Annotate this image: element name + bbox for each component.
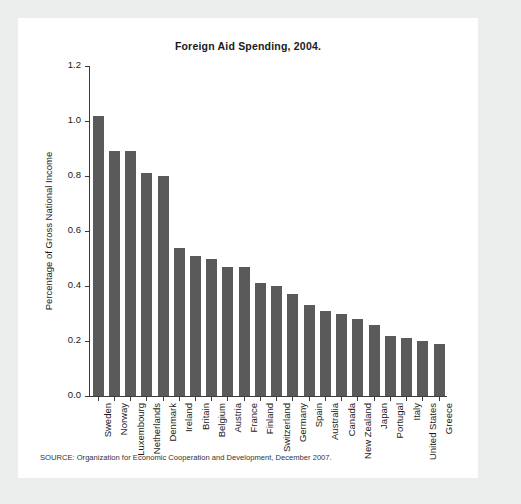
x-tick-slot [334,397,350,401]
bar [352,319,363,396]
x-tick-mark [179,397,180,401]
x-label-slot: Italy [398,403,414,475]
y-tick-label: 0.8 [68,169,81,180]
x-tick-slot [204,397,220,401]
bar [158,176,169,396]
x-label-slot: Switzerland [269,403,285,475]
x-tick-slot [122,397,138,401]
bar [255,283,266,396]
bar-slot [285,66,301,396]
chart-panel: Foreign Aid Spending, 2004. Percentage o… [18,18,478,478]
bar-slot [155,66,171,396]
x-tick-slot [285,397,301,401]
bar-slot [122,66,138,396]
y-tick-label: 0.0 [68,389,81,400]
x-tick-slot [301,397,317,401]
bar-slot [269,66,285,396]
y-tick-label: 1.2 [68,59,81,70]
x-label-slot: Britain [187,403,203,475]
x-label-slot: Sweden [90,403,106,475]
x-label-slot: Luxembourg [122,403,138,475]
x-tick-mark [422,397,423,401]
x-label-slot: Germany [285,403,301,475]
x-tick-mark [276,397,277,401]
x-tick-mark [195,397,196,401]
bar [93,116,104,397]
bar [401,338,412,396]
bar-slot [106,66,122,396]
x-label-slot: New Zealand [350,403,366,475]
x-tick-mark [211,397,212,401]
x-tick-slot [398,397,414,401]
x-tick-mark [260,397,261,401]
x-tick-slot [317,397,333,401]
x-tick-mark [130,397,131,401]
bar [174,248,185,397]
x-tick-slot [106,397,122,401]
x-tick-mark [98,397,99,401]
x-label-slot: Denmark [155,403,171,475]
x-tick-mark [325,397,326,401]
x-tick-mark [163,397,164,401]
x-tick-slot [171,397,187,401]
bar [206,259,217,397]
x-label-slot: United States [415,403,431,475]
source-note: SOURCE: Organization for Economic Cooper… [40,453,332,462]
bar-slot [415,66,431,396]
x-label-slot: Finland [252,403,268,475]
bar-slot [171,66,187,396]
bar-slot [398,66,414,396]
bar [434,344,445,396]
y-tick-label: 1.0 [68,114,81,125]
x-label-slot: Portugal [382,403,398,475]
x-label-slot: Japan [366,403,382,475]
x-tick-slot [236,397,252,401]
x-label-slot: Spain [301,403,317,475]
chart-title: Foreign Aid Spending, 2004. [18,40,478,52]
bar-slot [236,66,252,396]
x-tick-slot [139,397,155,401]
bar [369,325,380,397]
x-tick-mark [292,397,293,401]
x-axis-labels: SwedenNorwayLuxembourgNetherlandsDenmark… [90,403,447,475]
bar-series [90,66,447,396]
bar-slot [382,66,398,396]
x-axis-ticks [90,397,447,401]
x-tick-mark [341,397,342,401]
bar [287,294,298,396]
y-tick-label: 0.6 [68,224,81,235]
x-tick-mark [357,397,358,401]
x-tick-slot [366,397,382,401]
bar [239,267,250,396]
bar [141,173,152,396]
bar [320,311,331,396]
bar-slot [252,66,268,396]
x-tick-slot [415,397,431,401]
bar-slot [220,66,236,396]
bar-slot [90,66,106,396]
bar [336,314,347,397]
x-tick-mark [309,397,310,401]
x-label-slot: Belgium [204,403,220,475]
x-label-slot: Netherlands [139,403,155,475]
x-label-slot: Canada [334,403,350,475]
bar-slot [139,66,155,396]
bar [190,256,201,396]
x-tick-slot [220,397,236,401]
x-label-slot: Ireland [171,403,187,475]
x-tick-slot [90,397,106,401]
bar-slot [334,66,350,396]
x-tick-mark [390,397,391,401]
x-tick-slot [350,397,366,401]
bar [222,267,233,396]
bar-slot [204,66,220,396]
x-label-slot: France [236,403,252,475]
bar [109,151,120,396]
x-tick-slot [187,397,203,401]
x-tick-mark [146,397,147,401]
bar [271,286,282,396]
x-tick-slot [252,397,268,401]
chart-page: Foreign Aid Spending, 2004. Percentage o… [0,0,521,504]
x-tick-mark [374,397,375,401]
y-tick-label: 0.2 [68,334,81,345]
